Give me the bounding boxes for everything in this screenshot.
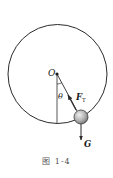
ball xyxy=(74,110,88,124)
pivot-label: O xyxy=(48,68,56,78)
tension-label-subscript: T xyxy=(82,97,86,103)
figure-caption: 图 1-4 xyxy=(0,155,113,166)
tension-label: FT xyxy=(75,92,86,103)
pivot-point xyxy=(55,72,58,75)
tension-arrow xyxy=(68,95,76,110)
angle-arc xyxy=(57,83,62,84)
angle-label: θ xyxy=(58,92,63,101)
gravity-label: G xyxy=(84,139,91,149)
pendulum-diagram: O θ FT G xyxy=(0,0,113,178)
